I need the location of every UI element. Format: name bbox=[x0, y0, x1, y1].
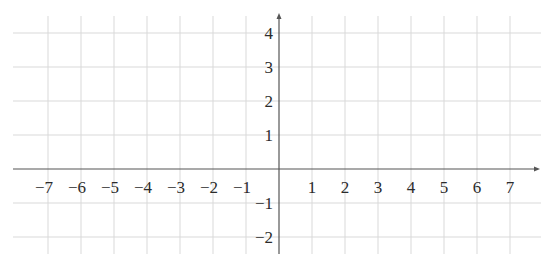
x-tick-label: −3 bbox=[167, 178, 185, 197]
x-tick-label: 4 bbox=[407, 178, 416, 197]
y-tick-label: −1 bbox=[255, 194, 273, 213]
x-tick-label: 1 bbox=[308, 178, 317, 197]
x-tick-label: −6 bbox=[68, 178, 86, 197]
y-tick-label: 1 bbox=[265, 126, 274, 145]
x-tick-label: −7 bbox=[35, 178, 54, 197]
x-tick-label: −2 bbox=[200, 178, 218, 197]
x-tick-label: 2 bbox=[341, 178, 350, 197]
x-tick-label: 5 bbox=[440, 178, 449, 197]
x-tick-label: 7 bbox=[506, 178, 515, 197]
coordinate-plane: −7−6−5−4−3−2−11234567 4321−1−2 bbox=[0, 0, 557, 274]
x-tick-labels: −7−6−5−4−3−2−11234567 bbox=[35, 178, 515, 197]
x-tick-label: −4 bbox=[134, 178, 153, 197]
x-tick-label: 3 bbox=[374, 178, 383, 197]
y-tick-label: −2 bbox=[255, 228, 273, 247]
axes bbox=[13, 13, 540, 254]
x-tick-label: −1 bbox=[233, 178, 251, 197]
grid-lines bbox=[13, 16, 541, 254]
x-axis-arrow-icon bbox=[534, 167, 540, 172]
x-tick-label: 6 bbox=[473, 178, 482, 197]
x-tick-label: −5 bbox=[101, 178, 119, 197]
y-tick-label: 2 bbox=[265, 92, 274, 111]
y-axis-arrow-icon bbox=[277, 13, 282, 19]
y-tick-label: 3 bbox=[265, 58, 274, 77]
y-tick-label: 4 bbox=[265, 24, 274, 43]
